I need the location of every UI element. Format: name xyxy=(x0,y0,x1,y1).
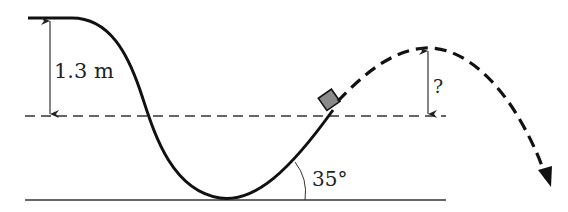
projectile-trajectory xyxy=(338,48,546,178)
diagram-svg: 1.3 m ? 35° xyxy=(0,0,568,212)
block xyxy=(318,89,340,110)
unknown-height-label: ? xyxy=(433,75,443,97)
track-curve xyxy=(28,18,333,198)
diagram-canvas: 1.3 m ? 35° xyxy=(0,0,568,212)
angle-label: 35° xyxy=(312,167,347,191)
drop-height-label: 1.3 m xyxy=(54,59,114,83)
trajectory-arrowhead xyxy=(538,166,552,187)
angle-arc xyxy=(295,162,306,200)
